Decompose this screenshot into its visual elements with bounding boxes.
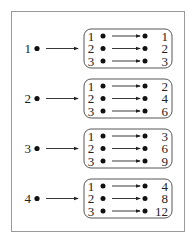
codomain-label: 3 [162,54,169,69]
input-dot [34,46,39,51]
input-dot [34,146,39,151]
mapping-group: 3132639 [25,129,173,169]
domain-dot [101,184,106,189]
mapping-group: 41428312 [25,179,173,219]
codomain-dot [143,146,148,151]
input-dot [34,196,39,201]
codomain-label: 6 [162,104,169,119]
domain-label: 3 [88,154,95,169]
domain-label: 3 [88,104,95,119]
input-label: 1 [25,41,32,56]
codomain-dot [143,184,148,189]
domain-dot [101,46,106,51]
input-label: 3 [25,141,32,156]
domain-dot [101,159,106,164]
domain-dot [101,34,106,39]
codomain-dot [143,34,148,39]
mapping-diagram: 11122332122436313263941428312 [0,0,195,249]
codomain-dot [143,109,148,114]
codomain-dot [143,159,148,164]
domain-dot [101,96,106,101]
codomain-dot [143,96,148,101]
domain-dot [101,59,106,64]
codomain-dot [143,196,148,201]
domain-dot [101,134,106,139]
codomain-dot [143,59,148,64]
input-label: 4 [25,191,32,206]
input-dot [34,96,39,101]
domain-dot [101,84,106,89]
mapping-group: 1112233 [25,29,173,69]
codomain-dot [143,84,148,89]
domain-dot [101,209,106,214]
input-label: 2 [25,91,32,106]
codomain-label: 12 [155,204,168,219]
codomain-dot [143,209,148,214]
domain-label: 3 [88,54,95,69]
domain-dot [101,146,106,151]
codomain-dot [143,46,148,51]
codomain-dot [143,134,148,139]
domain-dot [101,109,106,114]
domain-label: 3 [88,204,95,219]
domain-dot [101,196,106,201]
codomain-label: 9 [162,154,169,169]
mapping-group: 2122436 [25,79,173,119]
